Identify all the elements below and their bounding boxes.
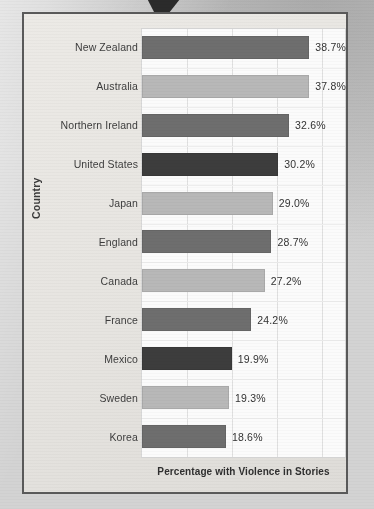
bar-value-label: 32.6% bbox=[295, 119, 326, 131]
bar-value-label: 19.9% bbox=[238, 353, 269, 365]
bar-row[interactable]: 30.2% bbox=[142, 145, 346, 184]
category-label: Japan bbox=[42, 184, 138, 223]
category-label: Northern Ireland bbox=[42, 106, 138, 145]
bar-row[interactable]: 29.0% bbox=[142, 184, 346, 223]
category-label: New Zealand bbox=[42, 28, 138, 67]
category-label: Korea bbox=[42, 417, 138, 456]
bar[interactable] bbox=[142, 114, 289, 137]
bar[interactable] bbox=[142, 386, 229, 409]
bar-value-label: 29.0% bbox=[279, 197, 310, 209]
category-label: United States bbox=[42, 145, 138, 184]
category-label: England bbox=[42, 223, 138, 262]
category-axis-labels: New ZealandAustraliaNorthern IrelandUnit… bbox=[42, 28, 138, 458]
bar-value-label: 27.2% bbox=[271, 275, 302, 287]
category-label: Australia bbox=[42, 67, 138, 106]
category-label: France bbox=[42, 300, 138, 339]
bar-value-label: 18.6% bbox=[232, 431, 263, 443]
bar[interactable] bbox=[142, 153, 278, 176]
x-axis-title: Percentage with Violence in Stories bbox=[141, 466, 346, 477]
bar-value-label: 24.2% bbox=[257, 314, 288, 326]
bar-row[interactable]: 24.2% bbox=[142, 300, 346, 339]
bar-series: 38.7%37.8%32.6%30.2%29.0%28.7%27.2%24.2%… bbox=[142, 28, 346, 458]
bar[interactable] bbox=[142, 308, 251, 331]
bar-row[interactable]: 19.9% bbox=[142, 339, 346, 378]
bar-value-label: 38.7% bbox=[315, 41, 346, 53]
bar-row[interactable]: 18.6% bbox=[142, 417, 346, 456]
bar-row[interactable]: 28.7% bbox=[142, 223, 346, 262]
bar-value-label: 30.2% bbox=[284, 158, 315, 170]
bar[interactable] bbox=[142, 75, 309, 98]
bar[interactable] bbox=[142, 36, 309, 59]
bar[interactable] bbox=[142, 192, 273, 215]
bar-row[interactable]: 32.6% bbox=[142, 106, 346, 145]
bar[interactable] bbox=[142, 230, 271, 253]
y-axis-title: Country bbox=[30, 177, 42, 219]
bar-row[interactable]: 19.3% bbox=[142, 378, 346, 417]
category-label: Sweden bbox=[42, 378, 138, 417]
bar[interactable] bbox=[142, 347, 232, 370]
bar-value-label: 19.3% bbox=[235, 392, 266, 404]
bar-row[interactable]: 27.2% bbox=[142, 261, 346, 300]
bar-value-label: 28.7% bbox=[277, 236, 308, 248]
bar-row[interactable]: 37.8% bbox=[142, 67, 346, 106]
bar[interactable] bbox=[142, 269, 265, 292]
bar[interactable] bbox=[142, 425, 226, 448]
bar-row[interactable]: 38.7% bbox=[142, 28, 346, 67]
category-label: Mexico bbox=[42, 339, 138, 378]
chart-figure: Country New ZealandAustraliaNorthern Ire… bbox=[22, 12, 348, 494]
bar-value-label: 37.8% bbox=[315, 80, 346, 92]
category-label: Canada bbox=[42, 261, 138, 300]
